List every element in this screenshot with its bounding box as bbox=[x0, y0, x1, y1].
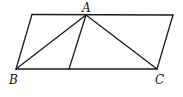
segment-AC bbox=[86, 15, 157, 69]
parallelogram-top-edge bbox=[32, 15, 173, 16]
label-B: B bbox=[8, 73, 18, 87]
label-C: C bbox=[155, 73, 164, 87]
parallelogram-right-edge bbox=[157, 15, 173, 69]
segment-AB bbox=[16, 15, 86, 69]
parallelogram-left-edge bbox=[16, 15, 32, 70]
label-A: A bbox=[81, 1, 91, 15]
segment-A-to-base bbox=[69, 15, 86, 69]
geometry-diagram: A B C bbox=[0, 0, 183, 97]
